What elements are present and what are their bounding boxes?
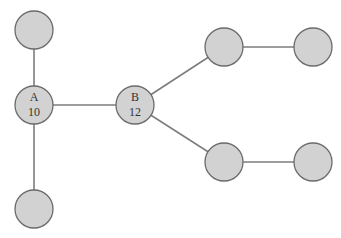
node-top-left bbox=[15, 11, 53, 49]
node-B: B 12 bbox=[116, 86, 154, 124]
node-bottom-left bbox=[15, 190, 53, 228]
edges-layer bbox=[34, 30, 313, 209]
node-B-value: 12 bbox=[129, 105, 141, 119]
node-B-label: B bbox=[131, 90, 139, 104]
node-A-label: A bbox=[30, 90, 39, 104]
node-upper-mid bbox=[205, 28, 243, 66]
node-A-value: 10 bbox=[28, 105, 40, 119]
node-A: A 10 bbox=[15, 86, 53, 124]
node-lower-right bbox=[294, 143, 332, 181]
diagram-canvas: A 10 B 12 bbox=[0, 0, 341, 238]
node-upper-right bbox=[294, 28, 332, 66]
nodes-layer: A 10 B 12 bbox=[15, 11, 332, 228]
node-lower-mid bbox=[205, 143, 243, 181]
tree-diagram: A 10 B 12 bbox=[0, 0, 341, 238]
